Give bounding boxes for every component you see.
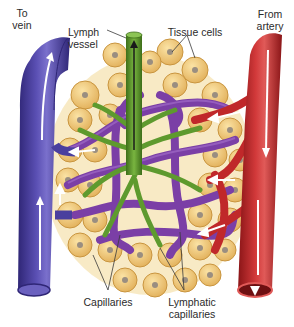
label-line: vessel (68, 38, 114, 50)
label-line: capillaries (160, 308, 224, 320)
label-tissue-cells: Tissue cells (160, 26, 230, 38)
label-to-vein: To vein (2, 7, 42, 31)
label-capillaries: Capillaries (76, 296, 140, 308)
label-line: artery (248, 20, 292, 32)
label-lymph-vessel: Lymph vessel (68, 26, 114, 50)
label-lymphatic-capillaries: Lymphatic capillaries (160, 296, 224, 320)
lymph-vessel (126, 32, 142, 175)
lymphatic-capillary-diagram: To vein Lymph vessel Tissue cells From a… (0, 0, 294, 327)
label-line: vein (2, 19, 42, 31)
label-from-artery: From artery (248, 8, 292, 32)
artery (238, 33, 282, 297)
label-line: To (2, 7, 42, 19)
label-line: Lymph (68, 26, 114, 38)
diagram-illustration (0, 0, 294, 327)
label-line: From (248, 8, 292, 20)
label-line: Lymphatic (160, 296, 224, 308)
